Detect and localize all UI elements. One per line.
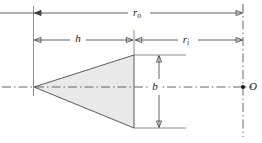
label-base-diameter: b	[152, 80, 158, 92]
dimension-base-diameter: b	[134, 55, 186, 128]
label-origin: O	[249, 80, 257, 92]
cone-dimension-diagram: ro h ri	[0, 0, 262, 143]
dimension-inner-radius: ri	[135, 32, 242, 48]
figure-canvas: ro h ri	[0, 0, 262, 143]
cone-cross-section	[34, 55, 134, 128]
dimension-height: h	[35, 32, 133, 48]
cone-triangle	[34, 55, 134, 128]
origin-dot	[241, 85, 245, 89]
label-height: h	[75, 32, 81, 44]
dimension-outer-radius: ro	[0, 5, 243, 21]
